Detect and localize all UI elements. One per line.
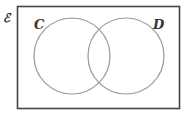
venn-diagram: ℰ C D	[0, 0, 188, 113]
set-c-label: C	[34, 17, 45, 32]
universal-set-label: ℰ	[3, 11, 12, 25]
set-d-label: D	[152, 17, 165, 32]
